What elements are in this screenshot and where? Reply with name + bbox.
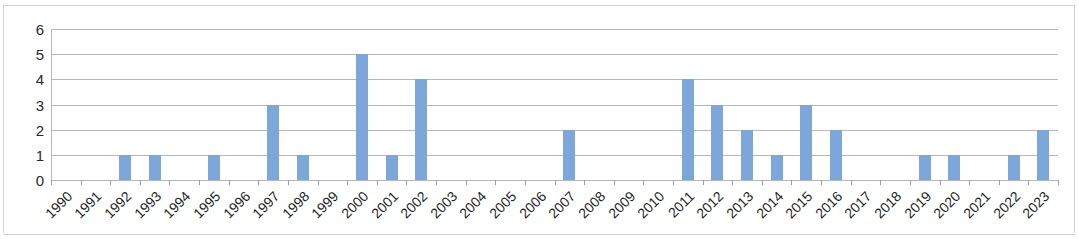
bar-slot bbox=[347, 29, 377, 180]
bar-slot bbox=[525, 29, 555, 180]
x-axis-tick-label: 2014 bbox=[753, 188, 786, 221]
bar[interactable] bbox=[741, 130, 753, 180]
bar-slot bbox=[999, 29, 1029, 180]
x-axis-tick-label: 1991 bbox=[71, 188, 104, 221]
x-axis-tick-label: 2012 bbox=[693, 188, 726, 221]
bar[interactable] bbox=[682, 79, 694, 180]
bar-slot bbox=[436, 29, 466, 180]
bar-slot bbox=[673, 29, 703, 180]
x-axis-tick-label: 2011 bbox=[664, 188, 697, 221]
x-axis-tick-label: 2018 bbox=[871, 188, 904, 221]
bar-slot bbox=[258, 29, 288, 180]
bar[interactable] bbox=[919, 155, 931, 180]
bar-slot bbox=[584, 29, 614, 180]
x-axis-tick-labels: 1990199119921993199419951996199719981999… bbox=[51, 182, 1058, 237]
bar-slot bbox=[880, 29, 910, 180]
x-axis-tick-label: 1990 bbox=[42, 188, 75, 221]
bar[interactable] bbox=[771, 155, 783, 180]
bar-chart: 0123456 19901991199219931994199519961997… bbox=[0, 0, 1079, 239]
x-axis-tick-label: 2023 bbox=[1019, 188, 1052, 221]
bar[interactable] bbox=[208, 155, 220, 180]
bar-slot bbox=[969, 29, 999, 180]
x-axis-tick-label: 2004 bbox=[456, 188, 489, 221]
y-axis-tick-label: 3 bbox=[14, 97, 44, 112]
bar-slot bbox=[377, 29, 407, 180]
x-axis-tick bbox=[1058, 180, 1059, 185]
bar[interactable] bbox=[267, 105, 279, 181]
y-axis-tick-label: 2 bbox=[14, 122, 44, 137]
x-axis-tick-label: 2015 bbox=[782, 188, 815, 221]
bar-slot bbox=[288, 29, 318, 180]
bar-slot bbox=[140, 29, 170, 180]
x-axis-tick-label: 1997 bbox=[249, 188, 282, 221]
x-axis-tick-label: 1996 bbox=[219, 188, 252, 221]
x-axis-tick-label: 2006 bbox=[516, 188, 549, 221]
bar-slot bbox=[732, 29, 762, 180]
bar-slot bbox=[110, 29, 140, 180]
bar-slot bbox=[821, 29, 851, 180]
x-axis-tick-label: 2009 bbox=[605, 188, 638, 221]
bar-slot bbox=[51, 29, 81, 180]
bar[interactable] bbox=[800, 105, 812, 181]
bar[interactable] bbox=[1037, 130, 1049, 180]
bar[interactable] bbox=[356, 54, 368, 180]
x-axis-tick-label: 2013 bbox=[723, 188, 756, 221]
bar-slot bbox=[762, 29, 792, 180]
x-axis-tick-label: 2003 bbox=[427, 188, 460, 221]
bar-slot bbox=[81, 29, 111, 180]
bar-slot bbox=[495, 29, 525, 180]
y-axis-tick-labels: 0123456 bbox=[8, 29, 44, 180]
y-axis-tick-label: 1 bbox=[14, 147, 44, 162]
bar[interactable] bbox=[415, 79, 427, 180]
x-axis-tick-label: 2021 bbox=[960, 188, 993, 221]
x-axis-tick-label: 1999 bbox=[308, 188, 341, 221]
bar[interactable] bbox=[563, 130, 575, 180]
bar-slot bbox=[1028, 29, 1058, 180]
bar-slot bbox=[851, 29, 881, 180]
x-axis-tick-label: 2001 bbox=[368, 188, 401, 221]
x-axis-tick-label: 2010 bbox=[634, 188, 667, 221]
bar[interactable] bbox=[297, 155, 309, 180]
bar[interactable] bbox=[149, 155, 161, 180]
x-axis-tick-label: 1998 bbox=[279, 188, 312, 221]
x-axis-tick-label: 2019 bbox=[901, 188, 934, 221]
bar-slot bbox=[555, 29, 585, 180]
x-axis-tick-label: 2007 bbox=[545, 188, 578, 221]
bar-slot bbox=[910, 29, 940, 180]
x-axis-tick-label: 2020 bbox=[930, 188, 963, 221]
x-axis-tick-label: 2016 bbox=[812, 188, 845, 221]
x-axis-tick-label: 2000 bbox=[338, 188, 371, 221]
bar[interactable] bbox=[386, 155, 398, 180]
bar-slot bbox=[614, 29, 644, 180]
x-axis-tick-label: 1992 bbox=[101, 188, 134, 221]
y-axis-tick-label: 5 bbox=[14, 47, 44, 62]
bar-slot bbox=[199, 29, 229, 180]
bar-slot bbox=[643, 29, 673, 180]
bar[interactable] bbox=[119, 155, 131, 180]
bar-slot bbox=[318, 29, 348, 180]
bar-slot bbox=[703, 29, 733, 180]
bar-slot bbox=[466, 29, 496, 180]
bar-slot bbox=[406, 29, 436, 180]
x-axis-tick-label: 2022 bbox=[990, 188, 1023, 221]
bar-slot bbox=[791, 29, 821, 180]
x-axis-tick-label: 2005 bbox=[486, 188, 519, 221]
x-axis-tick-label: 1995 bbox=[190, 188, 223, 221]
x-axis-tick-label: 2002 bbox=[397, 188, 430, 221]
y-axis-tick-label: 6 bbox=[14, 22, 44, 37]
x-axis-tick-label: 1993 bbox=[131, 188, 164, 221]
x-axis-tick-label: 2017 bbox=[841, 188, 874, 221]
x-axis-tick-label: 1994 bbox=[160, 188, 193, 221]
bar-slot bbox=[940, 29, 970, 180]
bar[interactable] bbox=[830, 130, 842, 180]
bar[interactable] bbox=[948, 155, 960, 180]
y-axis-tick-label: 0 bbox=[14, 173, 44, 188]
bar-slot bbox=[229, 29, 259, 180]
bar-slot bbox=[169, 29, 199, 180]
bar[interactable] bbox=[711, 105, 723, 181]
y-axis-tick-label: 4 bbox=[14, 72, 44, 87]
x-axis-tick-label: 2008 bbox=[575, 188, 608, 221]
bar-series bbox=[51, 29, 1058, 180]
bar[interactable] bbox=[1008, 155, 1020, 180]
